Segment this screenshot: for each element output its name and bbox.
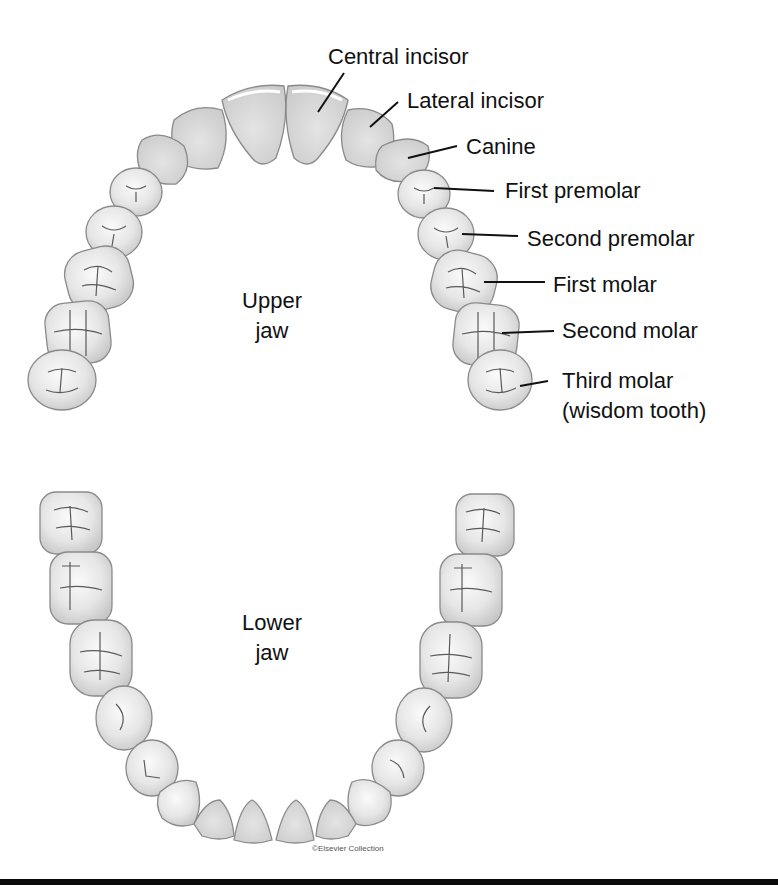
dental-arch-diagram	[0, 0, 778, 895]
label-second-molar: Second molar	[562, 318, 698, 344]
lower-jaw-label: Lower jaw	[222, 608, 322, 668]
lower-second-molar-left	[50, 552, 112, 624]
label-third-molar-note: (wisdom tooth)	[562, 398, 706, 424]
label-second-premolar: Second premolar	[527, 226, 695, 252]
lower-first-molar-right	[420, 622, 482, 698]
label-third-molar: Third molar	[562, 368, 673, 394]
lower-central-incisor-right	[276, 800, 314, 843]
upper-jaw	[28, 85, 532, 410]
label-lateral-incisor: Lateral incisor	[407, 88, 544, 114]
label-first-molar: First molar	[553, 272, 657, 298]
lower-central-incisor-left	[234, 800, 272, 843]
bottom-rule	[0, 879, 778, 885]
upper-third-molar-left	[28, 350, 96, 410]
lower-jaw-label-line2: jaw	[222, 638, 322, 668]
upper-jaw-label: Upper jaw	[222, 286, 322, 346]
label-first-premolar: First premolar	[505, 178, 641, 204]
lower-second-premolar-left	[96, 686, 152, 750]
lower-lateral-incisor-left	[194, 800, 234, 839]
upper-third-molar-right	[468, 350, 532, 410]
upper-jaw-label-line2: jaw	[222, 316, 322, 346]
lower-second-molar-right	[440, 554, 502, 626]
label-canine: Canine	[466, 134, 536, 160]
copyright-credit: ©Elsevier Collection	[312, 844, 384, 853]
upper-jaw-label-line1: Upper	[222, 286, 322, 316]
lower-third-molar-right	[456, 494, 514, 556]
lower-jaw-label-line1: Lower	[222, 608, 322, 638]
label-central-incisor: Central incisor	[328, 44, 469, 70]
lower-first-molar-left	[70, 620, 132, 696]
